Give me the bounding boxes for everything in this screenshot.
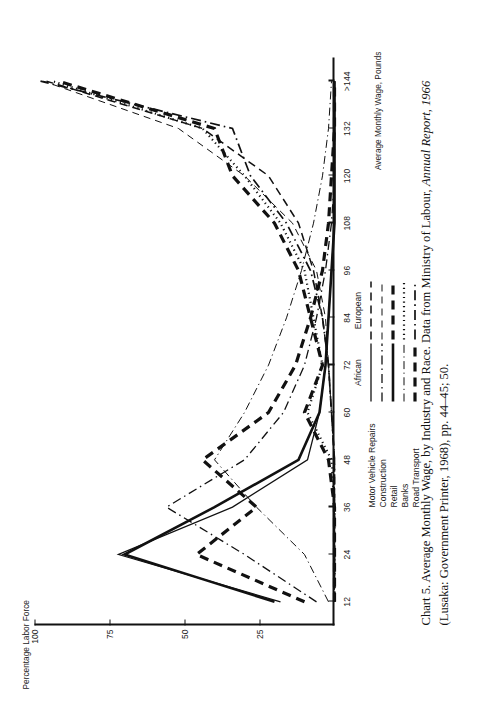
- x-tick-label: 72: [341, 360, 351, 370]
- legend-row: Motor Vehicle Repairs: [365, 279, 376, 507]
- x-tick-label: 48: [341, 454, 351, 464]
- series-line: [58, 81, 334, 602]
- legend-swatch-solid-thin: [365, 341, 376, 403]
- x-tick-label: 12: [341, 596, 351, 606]
- legend-swatch-dashed-thick: [387, 279, 398, 341]
- legend-row-label: Motor Vehicle Repairs: [365, 403, 376, 507]
- legend-swatch-dashed-thin: [376, 279, 387, 341]
- x-tick-label: >144: [341, 71, 351, 91]
- y-tick-label: 50: [179, 629, 189, 645]
- x-axis-title: Average Monthly Wage, Pounds: [372, 51, 382, 170]
- legend-row: Construction: [376, 279, 387, 507]
- series-line: [196, 81, 334, 602]
- y-tick-label: 25: [254, 629, 264, 645]
- rotated-figure-canvas: 1224364860728496108120132>144 255075100 …: [0, 0, 490, 703]
- x-tick-label: 108: [341, 215, 351, 230]
- chart-series-lines: [34, 57, 334, 625]
- x-tick-label: 36: [341, 502, 351, 512]
- x-tick-label: 120: [341, 168, 351, 183]
- legend-african-sample: [398, 341, 409, 403]
- legend-african-sample: [376, 341, 387, 403]
- legend-table: African European Motor Vehicle RepairsCo…: [352, 279, 420, 507]
- y-tick-label: 75: [104, 629, 114, 645]
- legend-african-sample: [365, 341, 376, 403]
- legend-swatch-dash-dot-thin: [376, 341, 387, 403]
- series-line: [214, 81, 331, 602]
- legend-european-sample: [398, 279, 409, 341]
- legend-swatch-dotted: [398, 279, 409, 341]
- series-line: [40, 81, 334, 602]
- legend-swatch-dash-dot-fine: [398, 341, 409, 403]
- series-line: [166, 81, 334, 602]
- legend-row: Banks: [398, 279, 409, 507]
- legend-header-european: European: [352, 279, 365, 341]
- x-tick-label: 60: [341, 407, 351, 417]
- x-tick-label: 132: [341, 121, 351, 136]
- chart-legend: African European Motor Vehicle RepairsCo…: [352, 279, 420, 507]
- legend-swatch-solid-thick: [387, 341, 398, 403]
- legend-european-sample: [365, 279, 376, 341]
- figure-caption: Chart 5. Average Monthly Wage, by Indust…: [416, 59, 452, 625]
- caption-tail: (Lusaka: Government Printer, 1968), pp. …: [436, 363, 450, 625]
- legend-rows: Motor Vehicle RepairsConstructionRetailB…: [365, 279, 420, 507]
- x-tick-label: 24: [341, 549, 351, 559]
- legend-row-label: Banks: [398, 403, 409, 507]
- legend-row-label: Construction: [376, 403, 387, 507]
- legend-row-label: Retail: [387, 403, 398, 507]
- legend-header-african: African: [352, 341, 365, 403]
- legend-european-sample: [387, 279, 398, 341]
- legend-row: Retail: [387, 279, 398, 507]
- y-axis-title: Percentage Labor Force: [20, 600, 30, 689]
- legend-european-sample: [376, 279, 387, 341]
- legend-header-blank: [352, 403, 365, 507]
- legend-african-sample: [387, 341, 398, 403]
- x-tick-label: 84: [341, 312, 351, 322]
- legend-swatch-dashed-med: [365, 279, 376, 341]
- caption-prefix: Chart 5. Average Monthly Wage, by Indust…: [418, 186, 432, 625]
- figure-page: 1224364860728496108120132>144 255075100 …: [0, 0, 490, 703]
- y-tick-label: 100: [29, 629, 39, 645]
- chart-plot-area: 1224364860728496108120132>144 255075100 …: [34, 57, 334, 625]
- caption-italic-title: Annual Report, 1966: [418, 80, 432, 185]
- series-line: [43, 81, 334, 602]
- x-tick-label: 96: [341, 265, 351, 275]
- series-line: [46, 81, 334, 602]
